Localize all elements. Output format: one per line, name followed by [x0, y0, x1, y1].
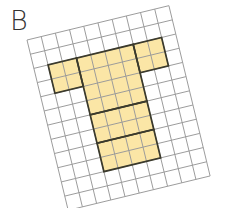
rotated-grid-diagram [0, 0, 233, 208]
grid-group [27, 6, 210, 208]
